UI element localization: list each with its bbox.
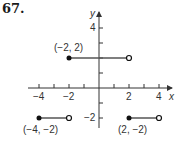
- y-tick-label: 4: [90, 22, 96, 33]
- x-tick-label: −2: [63, 91, 75, 102]
- piecewise-graph: −4 −2 2 4 x 4 −2 y (−2, 2) (−4, −2) (2, …: [0, 0, 183, 150]
- y-axis-label: y: [89, 8, 96, 19]
- open-point: [157, 116, 162, 121]
- y-ticks: [99, 28, 103, 118]
- y-tick-label: −2: [84, 112, 96, 123]
- x-tick-label: 4: [156, 91, 162, 102]
- open-point: [67, 116, 72, 121]
- x-tick-label: −4: [33, 91, 45, 102]
- closed-point: [127, 116, 132, 121]
- point-label: (−4, −2): [23, 124, 58, 135]
- x-tick-label: 2: [126, 91, 132, 102]
- closed-point: [37, 116, 42, 121]
- open-point: [127, 56, 132, 61]
- closed-point: [67, 56, 72, 61]
- point-label: (2, −2): [118, 124, 147, 135]
- point-label: (−2, 2): [54, 42, 83, 53]
- x-axis-label: x: [168, 91, 175, 102]
